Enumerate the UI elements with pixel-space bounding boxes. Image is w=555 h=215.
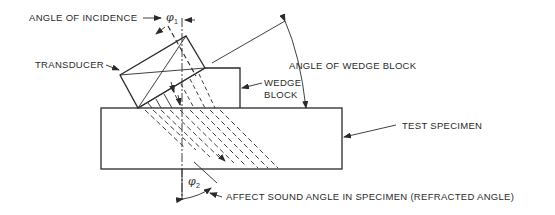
wedge-angle-extension bbox=[212, 21, 285, 63]
phi1-symbol: φ bbox=[166, 11, 174, 24]
refracted-angle-label: AFFECT SOUND ANGLE IN SPECIMEN (REFRACTE… bbox=[226, 191, 514, 202]
wedge-block-label-1: WEDGE bbox=[264, 77, 301, 88]
wedge-diagram: ANGLE OF INCIDENCE φ 1 TRANSDUCER ANGLE … bbox=[0, 0, 555, 215]
wedge-block bbox=[205, 68, 240, 108]
transducer-leader bbox=[106, 65, 119, 70]
incident-beam-hatch bbox=[148, 74, 215, 108]
test-specimen-leader bbox=[344, 125, 396, 137]
test-specimen-label: TEST SPECIMEN bbox=[402, 120, 482, 131]
beam-arrow bbox=[178, 95, 180, 105]
wedge-block-label-2: BLOCK bbox=[264, 89, 298, 100]
test-specimen-block bbox=[101, 108, 342, 169]
incidence-tick-arrow bbox=[156, 27, 165, 34]
angle-of-incidence-label: ANGLE OF INCIDENCE bbox=[29, 12, 137, 23]
phi2-ray bbox=[194, 162, 217, 183]
refracted-beam-hatch bbox=[145, 110, 278, 168]
phi1-subscript: 1 bbox=[174, 18, 178, 25]
transducer-shape bbox=[120, 36, 205, 108]
phi2-arc bbox=[183, 188, 211, 199]
phi2-subscript: 2 bbox=[196, 182, 200, 189]
angle-of-wedge-block-label: ANGLE OF WEDGE BLOCK bbox=[289, 60, 417, 71]
wedge-block-leader bbox=[242, 83, 262, 88]
transducer-label: TRANSDUCER bbox=[35, 59, 104, 70]
refracted-angle-leader bbox=[210, 193, 222, 197]
phi2-symbol: φ bbox=[188, 175, 196, 188]
